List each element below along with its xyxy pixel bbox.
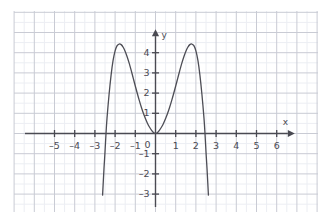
y-tick-label-1: 1	[143, 108, 149, 118]
y-tick-label-2: 2	[143, 88, 149, 98]
x-tick-label-6: 6	[274, 141, 280, 151]
x-tick-label-5: 5	[253, 141, 259, 151]
y-tick-label-4: 4	[143, 48, 149, 58]
x-tick-label-4: 4	[233, 141, 239, 151]
x-tick-label-3: 3	[213, 141, 219, 151]
x-tick-label-2: 2	[193, 141, 199, 151]
y-axis-name: y	[162, 31, 167, 40]
x-tick-label-neg4: –4	[69, 141, 80, 151]
y-tick-label-neg3: –3	[139, 189, 150, 199]
origin-label: 0	[144, 140, 150, 150]
x-tick-label-neg3: –3	[89, 141, 100, 151]
grid-minor	[14, 11, 318, 212]
y-tick-label-neg1: –1	[139, 149, 150, 159]
x-tick-label-neg5: –5	[49, 141, 60, 151]
y-tick-label-neg2: –2	[139, 169, 150, 179]
coordinate-plot	[0, 0, 335, 221]
chart-container: –5–4–3–2–11234564321–1–2–30 x y	[0, 0, 335, 221]
y-tick-label-3: 3	[143, 68, 149, 78]
axis-lines	[25, 29, 295, 207]
x-tick-label-1: 1	[173, 141, 179, 151]
x-axis-name: x	[283, 118, 288, 127]
x-tick-label-neg2: –2	[110, 141, 121, 151]
